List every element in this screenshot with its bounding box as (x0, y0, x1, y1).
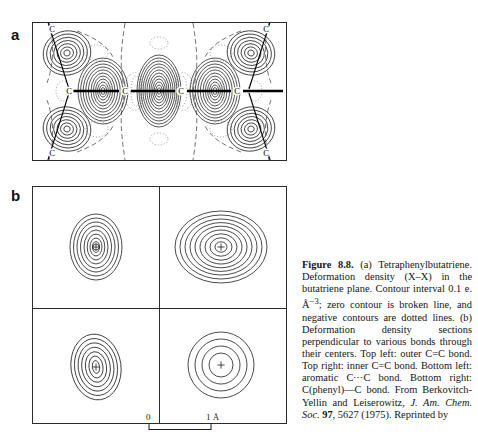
figure-caption: Figure 8.8. (a) Tetraphenylbutatriene. D… (302, 259, 472, 421)
bond-single-icon: — (344, 384, 354, 395)
scale-bar: 0 1 Å (146, 412, 230, 436)
caption-top-left-end: C bond. (438, 348, 472, 359)
chain-atom-label: C (122, 86, 128, 96)
figure-8-8: a (0, 0, 478, 438)
caption-part-a-cont: ; zero contour is broken line, and negat… (302, 300, 472, 323)
caption-top-right: Top right: inner C (302, 360, 378, 371)
caption-figure-number: Figure 8.8. (302, 259, 354, 270)
bond-aromatic-icon: ⋯ (353, 372, 363, 383)
subpanel-outer-cc-center-marker (93, 244, 100, 251)
subpanel-aromatic-cc-center-marker (92, 363, 99, 370)
chain-atom-label: C (234, 86, 240, 96)
caption-reprint: Reprinted by (394, 409, 448, 420)
panel-b-section-grid (32, 186, 287, 424)
caption-top-right-end: C bond. (384, 360, 418, 371)
caption-bottom-left-end: C bond. (363, 372, 401, 383)
chain-atom-label: C (178, 86, 184, 96)
caption-volume: 97 (322, 409, 332, 420)
corner-atom-label: C (49, 24, 55, 34)
panel-a-contour-map: C C C C C C C C (32, 22, 287, 161)
scale-bar-ruler (146, 423, 230, 435)
subpanel-inner-cc-center-marker (217, 243, 224, 250)
caption-exponent: −3 (310, 296, 319, 306)
corner-atom-label: C (49, 148, 55, 158)
caption-page: 5627 (338, 409, 359, 420)
panel-b-label: b (11, 188, 20, 203)
panel-a-svg: C C C C C C C C (33, 23, 286, 160)
subpanel-phenyl-c-center-marker (217, 361, 224, 368)
corner-atom-label: C (263, 24, 269, 34)
corner-atom-label: C (263, 148, 269, 158)
scale-label-start: 0 (146, 412, 151, 422)
caption-bottom-right-end: C bond. (355, 384, 390, 395)
caption-year: (1975). (361, 409, 391, 420)
caption-top-left: Top left: outer C (360, 348, 432, 359)
chain-atom-label: C (66, 86, 72, 96)
scale-label-end: 1 Å (206, 412, 219, 422)
panel-a-label: a (11, 27, 19, 42)
panel-b-svg (33, 187, 286, 423)
grid-dividers (33, 187, 286, 423)
